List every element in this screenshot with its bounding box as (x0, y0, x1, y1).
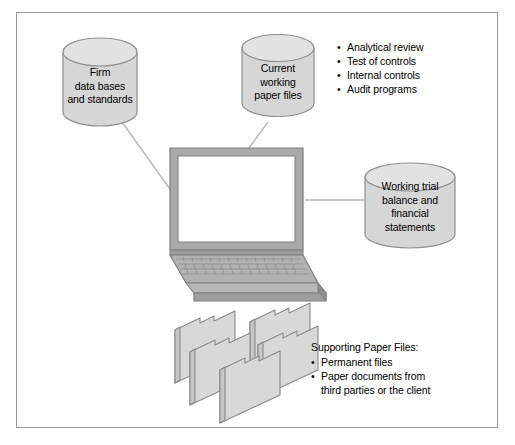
supporting-files-item-label: Paper documents from (321, 370, 425, 382)
cylinder-label-working-trial-balance: Working trial balance and financial stat… (364, 180, 456, 234)
cylinder-label-line: Working trial (364, 180, 456, 194)
audit-procedures-list: • Analytical review • Test of controls •… (337, 40, 424, 96)
bullet-icon: • (337, 40, 341, 54)
supporting-paper-files-block: Supporting Paper Files: • Permanent file… (311, 340, 430, 397)
audit-list-item-label: Test of controls (347, 55, 416, 67)
bullet-icon: • (311, 355, 315, 369)
supporting-files-item-label: Permanent files (321, 356, 392, 368)
supporting-files-item-continuation: third parties or the client (311, 383, 430, 397)
audit-list-item: • Audit programs (337, 82, 424, 96)
supporting-files-heading: Supporting Paper Files: (311, 340, 430, 354)
bullet-icon: • (311, 369, 315, 383)
cylinder-label-line: and standards (55, 93, 145, 107)
cylinder-label-line: balance and (364, 194, 456, 208)
cylinder-label-line: paper files (236, 89, 320, 103)
cylinder-label-line: working (236, 76, 320, 90)
bullet-icon: • (337, 54, 341, 68)
bullet-icon: • (337, 68, 341, 82)
cylinder-label-line: financial (364, 207, 456, 221)
cylinder-label-line: Firm (55, 66, 145, 80)
diagram-canvas: Firm data bases and standards Current wo… (0, 0, 515, 445)
audit-list-item-label: Audit programs (347, 83, 417, 95)
cylinder-label-line: statements (364, 221, 456, 235)
audit-list-item: • Internal controls (337, 68, 424, 82)
supporting-files-item: • Permanent files (311, 355, 430, 369)
audit-list-item-label: Analytical review (347, 41, 424, 53)
cylinder-label-firm-databases: Firm data bases and standards (55, 66, 145, 107)
audit-list-item-label: Internal controls (347, 69, 420, 81)
audit-list-item: • Analytical review (337, 40, 424, 54)
cylinder-label-current-working-paper-files: Current working paper files (236, 62, 320, 103)
cylinder-label-line: Current (236, 62, 320, 76)
cylinder-label-line: data bases (55, 80, 145, 94)
audit-list-item: • Test of controls (337, 54, 424, 68)
supporting-files-item: • Paper documents from (311, 369, 430, 383)
bullet-icon: • (337, 82, 341, 96)
